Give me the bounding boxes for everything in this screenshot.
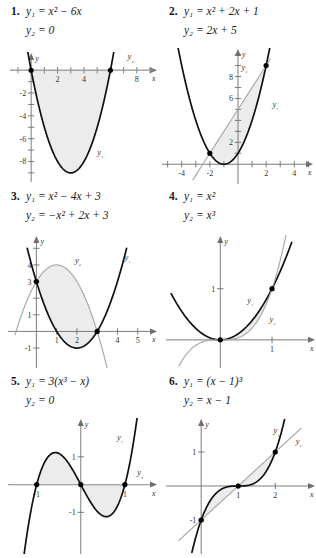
plot-2: -4-224268y₁y₂xy: [162, 48, 314, 184]
plot-1: 248-2-4-6-8y₁y₂xy: [10, 52, 158, 182]
exercise-number: 1.: [11, 6, 26, 18]
y-tick-label: 6: [229, 94, 233, 103]
curve-label-y1: y₁: [272, 425, 279, 436]
y-tick-label: -6: [19, 135, 26, 144]
intersection-point: [199, 517, 204, 522]
curve-y1: [171, 242, 292, 339]
exercise-panel-2: 2.y₁ = x² + 2x + 10.y₂ = 2x + 5-4-224268…: [158, 0, 316, 185]
x-tick-label: 4: [292, 169, 296, 178]
equation-block: 5.y₁ = 3(x³ − x)0.y₂ = 0: [11, 376, 89, 406]
equation-row-2: 0.y₂ = x³: [169, 210, 215, 222]
x-tick-label: -2: [207, 169, 214, 178]
intersection-point: [29, 68, 34, 73]
x-axis-arrow: [308, 337, 315, 343]
x-tick-label: 2: [56, 75, 60, 84]
curve-label-y1: y₁: [96, 147, 103, 158]
curve-label-y2: y₂: [74, 255, 81, 266]
exercise-panel-4: 4.y₁ = x²0.y₂ = x³11y₁y₂xy: [158, 185, 316, 370]
x-axis-arrow: [308, 483, 315, 489]
equation-block: 3.y₁ = x² − 4x + 30.y₂ = −x² + 2x + 3: [11, 191, 109, 221]
intersection-point: [34, 279, 39, 284]
exercise-panel-5: 5.y₁ = 3(x³ − x)0.y₂ = 0-11-11y₁y₂xy: [0, 370, 158, 558]
equation-row-2: 0.y₂ = 2x + 5: [169, 25, 259, 37]
equation-y2: y₂ = 2x + 5: [184, 25, 237, 37]
exercise-number: 6.: [169, 376, 184, 388]
x-tick-label: 5: [136, 336, 140, 345]
y-tick-label: -4: [19, 112, 26, 121]
intersection-point: [269, 286, 274, 291]
curve-label-y2: y₂: [136, 467, 143, 478]
equation-row-2: 0.y₂ = 0: [11, 25, 82, 37]
exercise-number: 5.: [11, 376, 26, 388]
x-axis-arrow: [150, 328, 157, 334]
intersection-point: [95, 329, 100, 334]
equation-y1: y₁ = x²: [184, 191, 215, 203]
equation-block: 1.y₁ = x² − 6x0.y₂ = 0: [11, 6, 82, 36]
y-axis-label: y: [223, 237, 228, 246]
plot-4: 11y₁y₂xy: [166, 235, 316, 368]
exercise-number: 2.: [169, 6, 184, 18]
x-axis-label: x: [309, 490, 314, 499]
equation-y1: y₁ = x² − 6x: [26, 6, 82, 18]
equation-row-1: 1.y₁ = x² − 6x: [11, 6, 82, 18]
x-tick-label: 4: [115, 336, 119, 345]
exercise-panel-3: 3.y₁ = x² − 4x + 30.y₂ = −x² + 2x + 3124…: [0, 185, 158, 370]
intersection-point: [218, 337, 223, 342]
intersection-point: [78, 482, 83, 487]
y-axis-arrow: [33, 236, 39, 243]
exercise-number: 3.: [11, 191, 26, 203]
curve-label-y1: y₁: [271, 99, 278, 110]
intersection-point: [122, 482, 127, 487]
x-tick-label: 1: [55, 336, 59, 345]
intersection-point: [236, 483, 241, 488]
plot-6: 12-11y₁y₂xy: [166, 418, 316, 554]
equation-y1: y₁ = 3(x³ − x): [26, 376, 89, 388]
curve-label-y1: y₁: [124, 252, 131, 263]
y-axis-label: y: [241, 50, 246, 59]
equation-y2: y₂ = −x² + 2x + 3: [26, 210, 109, 222]
equation-row-1: 6.y₁ = (x − 1)³: [169, 376, 242, 388]
curve-label-y2: y₂: [241, 62, 248, 73]
x-tick-label: -4: [178, 169, 185, 178]
exercise-panel-1: 1.y₁ = x² − 6x0.y₂ = 0248-2-4-6-8y₁y₂xy: [0, 0, 158, 185]
y-axis-label: y: [204, 420, 209, 429]
equation-y2: y₂ = x − 1: [184, 395, 231, 407]
exercise-panel-6: 6.y₁ = (x − 1)³0.y₂ = x − 112-11y₁y₂xy: [158, 370, 316, 558]
y-tick-label: 1: [211, 285, 215, 294]
x-tick-label: 2: [264, 169, 268, 178]
equation-y2: y₂ = x³: [184, 210, 215, 222]
y-tick-label: 8: [229, 73, 233, 82]
equation-y1: y₁ = x² − 4x + 3: [26, 191, 101, 203]
y-tick-label: -1: [25, 344, 32, 353]
y-tick-label: 1: [27, 311, 31, 320]
x-tick-label: 2: [273, 491, 277, 500]
shaded-region: [220, 289, 272, 340]
equation-row-1: 4.y₁ = x²: [169, 191, 215, 203]
equation-y1: y₁ = x² + 2x + 1: [184, 6, 259, 18]
equation-block: 2.y₁ = x² + 2x + 10.y₂ = 2x + 5: [169, 6, 259, 36]
y-tick-label: 1: [192, 448, 196, 457]
y-axis-label: y: [84, 420, 89, 429]
intersection-point: [264, 63, 269, 68]
exercise-number: 4.: [169, 191, 184, 203]
y-axis-label: y: [39, 237, 44, 246]
x-tick-label: 1: [270, 345, 274, 354]
equation-y2: y₂ = 0: [26, 25, 54, 37]
y-tick-label: -2: [19, 89, 26, 98]
y-axis-arrow: [198, 419, 204, 426]
intersection-point: [108, 68, 113, 73]
y-axis-arrow: [78, 419, 84, 426]
x-axis-label: x: [309, 344, 314, 353]
equation-y2: y₂ = 0: [26, 395, 54, 407]
y-tick-label: -8: [19, 157, 26, 166]
x-tick-label: 2: [75, 336, 79, 345]
x-axis-arrow: [306, 161, 313, 167]
equation-y1: y₁ = (x − 1)³: [184, 376, 242, 388]
plot-3: 1245-1134y₁y₂xy: [8, 235, 158, 368]
equation-block: 6.y₁ = (x − 1)³0.y₂ = x − 1: [169, 376, 242, 406]
x-tick-label: 4: [82, 75, 86, 84]
y-tick-label: 3: [27, 278, 31, 287]
x-axis-label: x: [151, 335, 156, 344]
curve-label-y1: y₁: [116, 432, 123, 443]
equation-block: 4.y₁ = x²0.y₂ = x³: [169, 191, 215, 221]
